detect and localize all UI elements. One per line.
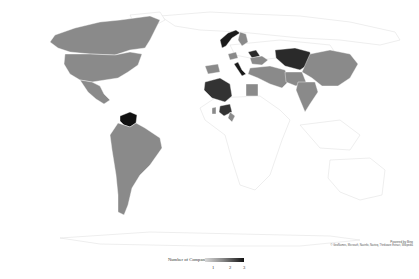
country-canada[interactable] — [50, 16, 160, 55]
map-copyright: © GeoNames, Microsoft, Navinfo, Navteq, … — [331, 244, 413, 247]
country-spain[interactable] — [205, 64, 220, 74]
legend-gradient-bar — [205, 258, 244, 262]
country-india[interactable] — [296, 82, 318, 112]
country-germany[interactable] — [228, 52, 238, 60]
country-south-america[interactable] — [110, 123, 162, 215]
legend-title: Number of Companies — [168, 257, 210, 262]
country-egypt[interactable] — [246, 84, 258, 96]
country-italy[interactable] — [234, 62, 246, 76]
legend-tick-2: 2 — [229, 265, 231, 270]
world-choropleth-map — [0, 0, 419, 279]
country-algeria[interactable] — [204, 78, 232, 102]
country-mexico[interactable] — [80, 80, 110, 104]
country-china[interactable] — [302, 50, 358, 86]
legend-tick-1: 1 — [212, 265, 214, 270]
legend-tick-3: 3 — [243, 265, 245, 270]
country-usa[interactable] — [64, 52, 142, 82]
country-ghana[interactable] — [212, 107, 216, 114]
